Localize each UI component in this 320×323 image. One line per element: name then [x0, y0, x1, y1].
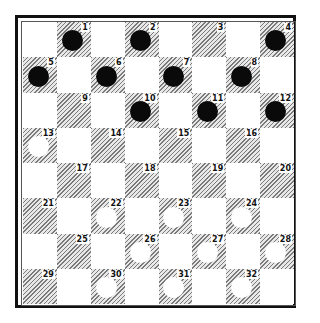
square-number: 18 [143, 164, 156, 173]
square-20[interactable]: 20 [260, 163, 294, 198]
black-piece[interactable] [62, 30, 83, 51]
square-number: 16 [245, 129, 258, 138]
light-square [125, 57, 159, 92]
square-1[interactable]: 1 [57, 22, 91, 57]
square-30[interactable]: 30 [91, 269, 125, 304]
square-number: 8 [251, 58, 259, 67]
white-piece[interactable] [231, 207, 252, 228]
black-piece[interactable] [96, 66, 117, 87]
light-square [57, 128, 91, 163]
white-piece[interactable] [231, 277, 252, 298]
black-piece[interactable] [231, 66, 252, 87]
black-piece[interactable] [197, 101, 218, 122]
square-24[interactable]: 24 [226, 198, 260, 233]
square-16[interactable]: 16 [226, 128, 260, 163]
light-square [23, 22, 57, 57]
square-number: 12 [279, 94, 292, 103]
light-square [91, 22, 125, 57]
light-square [192, 128, 226, 163]
light-square [159, 234, 193, 269]
square-6[interactable]: 6 [91, 57, 125, 92]
light-square [192, 269, 226, 304]
square-number: 25 [76, 235, 89, 244]
light-square [159, 22, 193, 57]
square-8[interactable]: 8 [226, 57, 260, 92]
square-3[interactable]: 3 [192, 22, 226, 57]
square-11[interactable]: 11 [192, 93, 226, 128]
black-piece[interactable] [163, 66, 184, 87]
black-piece[interactable] [130, 101, 151, 122]
white-piece[interactable] [197, 242, 218, 263]
square-9[interactable]: 9 [57, 93, 91, 128]
white-piece[interactable] [163, 207, 184, 228]
light-square [260, 128, 294, 163]
square-14[interactable]: 14 [91, 128, 125, 163]
square-5[interactable]: 5 [23, 57, 57, 92]
square-number: 17 [76, 164, 89, 173]
light-square [23, 163, 57, 198]
square-15[interactable]: 15 [159, 128, 193, 163]
square-26[interactable]: 26 [125, 234, 159, 269]
square-number: 26 [143, 235, 156, 244]
square-12[interactable]: 12 [260, 93, 294, 128]
square-number: 24 [245, 199, 258, 208]
black-piece[interactable] [28, 66, 49, 87]
square-7[interactable]: 7 [159, 57, 193, 92]
black-piece[interactable] [265, 30, 286, 51]
square-number: 3 [217, 23, 225, 32]
square-number: 10 [143, 94, 156, 103]
white-piece[interactable] [96, 277, 117, 298]
light-square [91, 163, 125, 198]
light-square [159, 163, 193, 198]
white-piece[interactable] [163, 277, 184, 298]
square-number: 28 [279, 235, 292, 244]
square-number: 19 [211, 164, 224, 173]
square-2[interactable]: 2 [125, 22, 159, 57]
light-square [192, 57, 226, 92]
square-21[interactable]: 21 [23, 198, 57, 233]
square-number: 1 [81, 23, 89, 32]
square-25[interactable]: 25 [57, 234, 91, 269]
light-square [125, 198, 159, 233]
light-square [125, 269, 159, 304]
square-number: 11 [211, 94, 224, 103]
square-number: 4 [284, 23, 292, 32]
light-square [125, 128, 159, 163]
square-32[interactable]: 32 [226, 269, 260, 304]
square-number: 14 [109, 129, 122, 138]
white-piece[interactable] [28, 136, 49, 157]
square-18[interactable]: 18 [125, 163, 159, 198]
square-19[interactable]: 19 [192, 163, 226, 198]
light-square [91, 234, 125, 269]
square-10[interactable]: 10 [125, 93, 159, 128]
square-28[interactable]: 28 [260, 234, 294, 269]
square-17[interactable]: 17 [57, 163, 91, 198]
light-square [260, 198, 294, 233]
black-piece[interactable] [265, 101, 286, 122]
white-piece[interactable] [96, 207, 117, 228]
light-square [226, 234, 260, 269]
black-piece[interactable] [130, 30, 151, 51]
light-square [159, 93, 193, 128]
light-square [260, 57, 294, 92]
square-number: 6 [115, 58, 123, 67]
light-square [57, 198, 91, 233]
white-piece[interactable] [265, 242, 286, 263]
square-number: 23 [177, 199, 190, 208]
square-31[interactable]: 31 [159, 269, 193, 304]
light-square [192, 198, 226, 233]
light-square [260, 269, 294, 304]
square-number: 29 [42, 270, 55, 279]
square-29[interactable]: 29 [23, 269, 57, 304]
square-4[interactable]: 4 [260, 22, 294, 57]
square-22[interactable]: 22 [91, 198, 125, 233]
square-13[interactable]: 13 [23, 128, 57, 163]
square-23[interactable]: 23 [159, 198, 193, 233]
square-number: 32 [245, 270, 258, 279]
white-piece[interactable] [130, 242, 151, 263]
square-number: 7 [183, 58, 191, 67]
light-square [91, 93, 125, 128]
light-square [23, 93, 57, 128]
square-27[interactable]: 27 [192, 234, 226, 269]
light-square [23, 234, 57, 269]
